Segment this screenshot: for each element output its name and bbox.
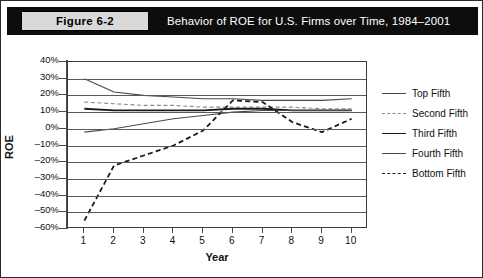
legend-line-icon: [382, 108, 406, 118]
x-axis-tick-label: 5: [190, 235, 214, 246]
y-axis-tick-label: 30%: [19, 72, 59, 82]
x-axis-tick-label: 10: [339, 235, 363, 246]
legend-item-label: Fourth Fifth: [412, 148, 463, 159]
series-line: [84, 100, 351, 220]
series-line: [84, 102, 351, 109]
legend-item-label: Top Fifth: [412, 88, 450, 99]
figure-number-label: Figure 6-2: [56, 15, 114, 27]
legend-item[interactable]: Second Fifth: [382, 103, 482, 123]
x-axis-tick: [321, 228, 322, 233]
x-axis-title: Year: [1, 251, 433, 263]
x-axis-tick: [291, 228, 292, 233]
x-axis-tick: [232, 228, 233, 233]
x-axis-tick-label: 1: [71, 235, 95, 246]
y-axis-tick-label: –20%: [19, 155, 59, 165]
gridline: [68, 79, 366, 80]
x-axis-tick: [351, 228, 352, 233]
x-axis-tick-label: 8: [279, 235, 303, 246]
x-axis-tick-label: 3: [131, 235, 155, 246]
legend-item-label: Bottom Fifth: [412, 168, 466, 179]
legend-line-icon: [382, 148, 406, 158]
gridline: [68, 196, 366, 197]
x-axis-tick-label: 9: [309, 235, 333, 246]
y-axis-tick-label: –40%: [19, 189, 59, 199]
y-axis-tick-label: 0%: [19, 122, 59, 132]
x-axis-tick: [83, 228, 84, 233]
y-axis-tick-labels: 40%30%20%10%0%–10%–20%–30%–40%–50%–60%: [15, 35, 59, 278]
x-axis-tick: [262, 228, 263, 233]
gridline: [68, 162, 366, 163]
figure-title: Behavior of ROE for U.S. Firms over Time…: [167, 7, 450, 35]
figure-header-band: Figure 6-2 Behavior of ROE for U.S. Firm…: [7, 7, 478, 35]
y-axis-tick-label: 10%: [19, 105, 59, 115]
legend-item[interactable]: Top Fifth: [382, 83, 482, 103]
y-axis-tick: [59, 61, 66, 62]
gridline: [68, 146, 366, 147]
y-axis-tick-label: –50%: [19, 205, 59, 215]
series-line: [84, 79, 351, 101]
y-axis-tick: [59, 111, 66, 112]
y-axis-title: ROE: [3, 135, 15, 159]
x-axis-tick: [202, 228, 203, 233]
legend-line-icon: [382, 168, 406, 178]
y-axis-tick: [59, 78, 66, 79]
x-axis-tick-label: 4: [160, 235, 184, 246]
y-axis-tick: [59, 195, 66, 196]
legend-line-icon: [382, 88, 406, 98]
plot-frame: [67, 61, 367, 228]
y-axis-tick-label: 40%: [19, 55, 59, 65]
figure-container: Figure 6-2 Behavior of ROE for U.S. Firm…: [0, 0, 483, 278]
y-axis-tick: [59, 145, 66, 146]
y-axis-tick: [59, 161, 66, 162]
chart-legend: Top FifthSecond FifthThird FifthFourth F…: [382, 83, 482, 183]
x-axis-tick: [113, 228, 114, 233]
y-axis-tick: [59, 211, 66, 212]
y-axis-tick-label: –30%: [19, 172, 59, 182]
x-axis-tick-label: 7: [250, 235, 274, 246]
y-axis-tick-label: 20%: [19, 88, 59, 98]
x-axis-tick-label: 6: [220, 235, 244, 246]
y-axis-tick-label: –60%: [19, 222, 59, 232]
y-axis-tick-label: –10%: [19, 139, 59, 149]
y-axis-tick: [59, 128, 66, 129]
y-axis-tick: [59, 94, 66, 95]
gridline: [68, 179, 366, 180]
x-axis-tick: [172, 228, 173, 233]
gridline: [68, 95, 366, 96]
legend-item-label: Third Fifth: [412, 128, 457, 139]
legend-item[interactable]: Bottom Fifth: [382, 163, 482, 183]
x-axis-tick-label: 2: [101, 235, 125, 246]
legend-line-icon: [382, 128, 406, 138]
figure-number-box: Figure 6-2: [21, 11, 149, 31]
gridline: [68, 129, 366, 130]
legend-item-label: Second Fifth: [412, 108, 468, 119]
y-axis-tick: [59, 178, 66, 179]
chart-area: 40%30%20%10%0%–10%–20%–30%–40%–50%–60% R…: [1, 35, 483, 278]
gridline: [68, 212, 366, 213]
gridline: [68, 112, 366, 113]
legend-item[interactable]: Third Fifth: [382, 123, 482, 143]
legend-item[interactable]: Fourth Fifth: [382, 143, 482, 163]
y-axis-tick: [59, 228, 66, 229]
x-axis-tick: [143, 228, 144, 233]
